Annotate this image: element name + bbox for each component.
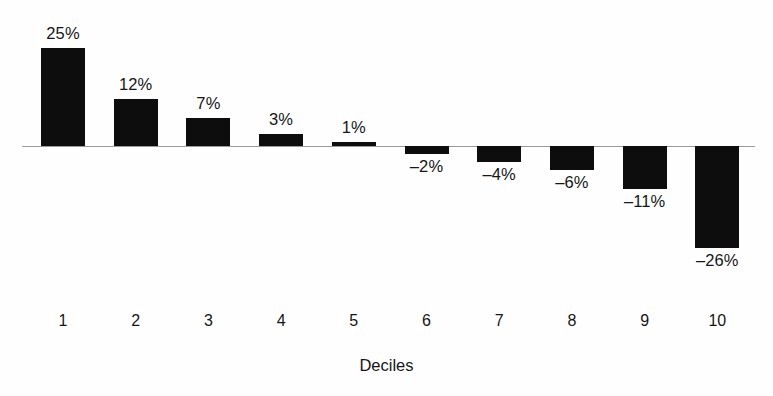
bar (332, 142, 376, 146)
x-axis-tick-label: 2 (106, 312, 166, 330)
bar (259, 134, 303, 146)
plot-area: 25%12%7%3%1%–2%–4%–6%–11%–26% (0, 0, 773, 396)
bar-value-label: –6% (522, 173, 622, 192)
bar-value-label: 25% (13, 24, 113, 43)
x-axis-tick-label: 4 (251, 312, 311, 330)
x-axis-tick-label: 3 (178, 312, 238, 330)
x-axis-tick-label: 8 (542, 312, 602, 330)
x-axis-tick-label: 1 (33, 312, 93, 330)
bar (114, 99, 158, 146)
bar (477, 146, 521, 162)
bar-value-label: 1% (304, 118, 404, 137)
bar-value-label: –26% (667, 251, 767, 270)
bar (623, 146, 667, 189)
x-axis-tick-label: 6 (397, 312, 457, 330)
bar-value-label: 12% (86, 75, 186, 94)
bar (550, 146, 594, 170)
bar (695, 146, 739, 248)
bar-value-label: –11% (595, 192, 695, 211)
x-axis-tick-label: 7 (469, 312, 529, 330)
x-axis-tick-label: 10 (687, 312, 747, 330)
bar (405, 146, 449, 154)
bar (186, 118, 230, 146)
x-axis-tick-label: 5 (324, 312, 384, 330)
x-axis-tick-label: 9 (615, 312, 675, 330)
bar (41, 48, 85, 146)
chart-figure: 25%12%7%3%1%–2%–4%–6%–11%–26% Deciles 12… (0, 0, 773, 396)
x-axis-title: Deciles (0, 356, 773, 375)
